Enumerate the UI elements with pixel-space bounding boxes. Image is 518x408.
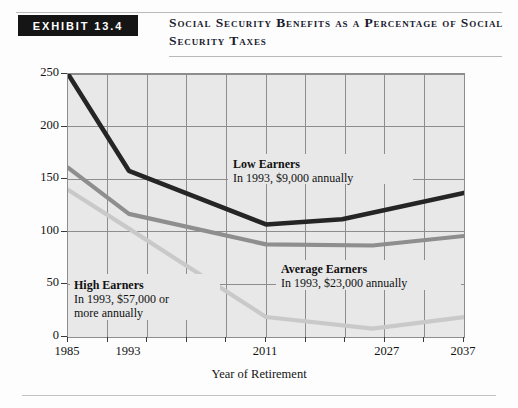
header-top-divider — [16, 12, 502, 13]
x-axis-tick-2027: 2027 — [357, 344, 417, 359]
y-axis-tick-50: 50 — [25, 275, 59, 290]
x-axis-tick-2037: 2037 — [433, 344, 493, 359]
exhibit-number-label: EXHIBIT 13.4 — [33, 20, 124, 32]
y-axis-tick-100: 100 — [25, 223, 59, 238]
x-axis-tick-1993: 1993 — [98, 344, 158, 359]
footer-divider — [22, 395, 496, 396]
series-annotation-average-earners-title: Average Earners — [281, 262, 407, 276]
series-annotation-low-earners-subtitle: In 1993, $9,000 annually — [233, 171, 353, 185]
x-axis-tick-1985: 1985 — [37, 344, 97, 359]
x-axis-tick-2011: 2011 — [235, 344, 295, 359]
series-annotation-high-earners-subtitle-line1: In 1993, $57,000 or — [74, 292, 169, 306]
series-annotation-high-earners: High Earners In 1993, $57,000 or more an… — [74, 278, 169, 320]
y-axis-tick-0: 0 — [25, 328, 59, 343]
series-annotation-average-earners: Average Earners In 1993, $23,000 annuall… — [281, 262, 407, 290]
exhibit-title: Social Security Benefits as a Percentage… — [169, 14, 504, 50]
exhibit-page: EXHIBIT 13.4 Social Security Benefits as… — [0, 0, 518, 408]
x-axis-title: Year of Retirement — [0, 367, 518, 382]
series-annotation-low-earners-title: Low Earners — [233, 157, 353, 171]
series-annotation-high-earners-title: High Earners — [74, 278, 169, 292]
y-axis-tick-250: 250 — [25, 65, 59, 80]
y-axis-tick-150: 150 — [25, 170, 59, 185]
series-annotation-high-earners-subtitle-line2: more annually — [74, 306, 169, 320]
y-axis-tick-200: 200 — [25, 118, 59, 133]
header-bottom-divider — [169, 56, 502, 57]
series-annotation-average-earners-subtitle: In 1993, $23,000 annually — [281, 276, 407, 290]
exhibit-number-badge: EXHIBIT 13.4 — [18, 15, 138, 36]
series-annotation-low-earners: Low Earners In 1993, $9,000 annually — [233, 157, 353, 185]
